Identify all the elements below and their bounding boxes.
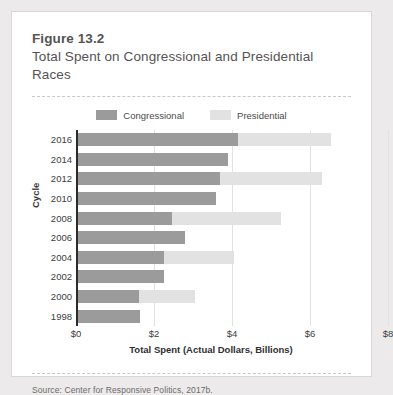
x-axis-ticks: $0$2$4$6$8 [76,326,346,342]
x-axis-tick-label: $6 [305,328,316,339]
y-axis-tick-label: 2008 [34,213,72,224]
bars-container: 2016201420122010200820062004200220001998 [76,130,346,326]
y-axis-tick-label: 2000 [34,291,72,302]
bar-stack [78,310,140,323]
bar-stack [78,192,216,205]
bar-segment-presidential [238,133,332,146]
legend-label-congressional: Congressional [123,110,184,121]
legend-label-presidential: Presidential [237,110,287,121]
x-axis-tick-label: $0 [71,328,82,339]
bar-segment-congressional [78,251,164,264]
bar-segment-congressional [78,133,238,146]
y-axis-tick-label: 2016 [34,134,72,145]
chart-plot-area: Cycle 2016201420122010200820062004200220… [32,130,351,326]
bar-row: 2016 [76,130,346,150]
legend-item-presidential: Presidential [210,110,287,121]
legend-swatch-congressional [96,110,117,120]
bar-segment-congressional [78,270,164,283]
bar-stack [78,270,164,283]
bar-row: 2008 [76,208,346,228]
bar-segment-congressional [78,192,216,205]
bar-segment-presidential [172,212,281,225]
bar-row: 2006 [76,228,346,248]
bar-row: 2004 [76,248,346,268]
bar-segment-congressional [78,153,228,166]
bar-row: 2010 [76,189,346,209]
bar-segment-presidential [164,251,234,264]
bar-row: 2012 [76,169,346,189]
bar-stack [78,172,322,185]
bar-stack [78,290,195,303]
bar-stack [78,231,185,244]
figure-card: Figure 13.2 Total Spent on Congressional… [11,11,372,377]
y-axis-tick-label: 2002 [34,271,72,282]
bar-segment-congressional [78,310,140,323]
y-axis-tick-label: 2014 [34,154,72,165]
x-axis-tick-label: $4 [227,328,238,339]
y-axis-tick-label: 2004 [34,252,72,263]
y-axis-tick-label: 2010 [34,193,72,204]
y-axis-tick-label: 2012 [34,173,72,184]
bar-stack [78,212,281,225]
legend-item-congressional: Congressional [96,110,184,121]
bar-stack [78,153,228,166]
page-title: Total Spent on Congressional and Preside… [32,48,342,84]
bar-segment-congressional [78,172,220,185]
bar-stack [78,133,331,146]
chart-legend: Congressional Presidential [32,108,351,122]
legend-swatch-presidential [210,110,231,120]
bar-segment-congressional [78,231,185,244]
y-axis-tick-label: 1998 [34,311,72,322]
x-axis-tick-label: $2 [149,328,160,339]
bar-stack [78,251,234,264]
gridline [388,130,389,326]
y-axis-tick-label: 2006 [34,232,72,243]
bar-row: 2014 [76,150,346,170]
divider-bottom [32,373,351,374]
bar-row: 1998 [76,306,346,326]
bar-row: 2002 [76,267,346,287]
x-axis-tick-label: $8 [383,328,393,339]
figure-number: Figure 13.2 [32,30,351,48]
bar-segment-presidential [139,290,195,303]
divider-top [32,96,351,97]
bar-row: 2000 [76,287,346,307]
source-note: Source: Center for Responsive Politics, … [32,385,351,395]
x-axis-title: Total Spent (Actual Dollars, Billions) [76,344,346,355]
figure-title-block: Figure 13.2 Total Spent on Congressional… [32,30,351,84]
bar-segment-congressional [78,290,139,303]
bar-segment-presidential [220,172,321,185]
bar-segment-congressional [78,212,172,225]
